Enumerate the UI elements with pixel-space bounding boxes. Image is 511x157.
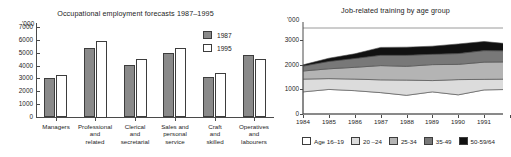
bar-chart-x-tick bbox=[135, 118, 136, 121]
legend-label: 25-34 bbox=[401, 138, 417, 145]
area-chart-x-tick-label: 1989 bbox=[419, 118, 445, 125]
bar-chart-category-label: Craftandskilled bbox=[193, 123, 237, 145]
bar-1987-craft-and-skilled bbox=[203, 77, 214, 117]
area-chart-x-tick-label: 1984 bbox=[290, 118, 316, 125]
bar-chart-x-tick bbox=[95, 118, 96, 121]
bar-1987-professional-and-related bbox=[84, 48, 95, 117]
bar-chart-category-label: Operativesandlabourers bbox=[232, 123, 276, 145]
bar-chart-y-tick bbox=[37, 27, 40, 28]
area-chart-plot-area: 0100020003000198419851986198719881989199… bbox=[280, 0, 503, 157]
legend-label: Age 16–19 bbox=[314, 138, 344, 145]
bar-chart-y-tick bbox=[37, 104, 40, 105]
bar-1995-professional-and-related bbox=[96, 41, 107, 118]
bar-chart-category-label: Professionalandrelated bbox=[73, 123, 117, 145]
area-chart-y-tick bbox=[300, 89, 303, 90]
bar-chart-legend: 1987 1995 bbox=[203, 31, 232, 57]
legend-item-20-24: 20 –24 bbox=[351, 137, 382, 145]
bar-1987-clerical-and-secretarial bbox=[124, 65, 135, 117]
bar-chart-y-tick bbox=[37, 53, 40, 54]
area-chart-x-tick-label: 1991 bbox=[471, 118, 497, 125]
area-chart-y-tick bbox=[300, 65, 303, 66]
bar-1995-clerical-and-secretarial bbox=[136, 59, 147, 117]
bar-chart-panel: Occupational employment forecasts 1987–1… bbox=[0, 0, 280, 157]
area-chart-y-tick bbox=[300, 40, 303, 41]
legend-swatch-1987 bbox=[203, 31, 212, 39]
area-chart-legend: Age 16–1920 –2425-3435-4950-59/64 bbox=[302, 137, 502, 145]
bar-1995-sales-and-personal-service bbox=[175, 48, 186, 117]
legend-item-25-34: 25-34 bbox=[389, 137, 417, 145]
legend-label: 50-59/64 bbox=[471, 138, 495, 145]
bar-chart-y-tick-label: 4000 bbox=[4, 62, 33, 69]
bar-chart-y-axis bbox=[36, 23, 37, 117]
bar-chart-category-label: Clericalandsecretarial bbox=[113, 123, 157, 145]
area-chart-panel: Job-related training by age group '000 0… bbox=[280, 0, 503, 157]
bar-1987-managers bbox=[44, 78, 55, 117]
legend-swatch bbox=[389, 137, 398, 145]
bar-chart-y-tick-label: 7000 bbox=[4, 23, 33, 30]
legend-item-age-16-19: Age 16–19 bbox=[302, 137, 344, 145]
legend-swatch bbox=[351, 137, 360, 145]
area-chart-y-tick-label: 2000 bbox=[277, 61, 299, 68]
area-chart-svg bbox=[280, 0, 503, 157]
bar-chart-y-tick bbox=[37, 117, 40, 118]
bar-1987-operatives-and-labourers bbox=[243, 55, 254, 117]
bar-chart-category-label: Managers bbox=[34, 123, 78, 130]
legend-swatch-1995 bbox=[203, 44, 212, 52]
legend-item-1987: 1987 bbox=[203, 31, 232, 39]
legend-label-1987: 1987 bbox=[217, 32, 232, 39]
bar-chart-y-tick bbox=[37, 78, 40, 79]
legend-label-1995: 1995 bbox=[217, 45, 232, 52]
bar-chart-x-tick bbox=[175, 118, 176, 121]
bar-chart-y-tick-label: 3000 bbox=[4, 74, 33, 81]
bar-chart-y-tick bbox=[37, 91, 40, 92]
bar-chart-y-tick bbox=[37, 66, 40, 67]
legend-swatch bbox=[302, 137, 311, 145]
bar-chart-x-tick bbox=[215, 118, 216, 121]
bar-1995-craft-and-skilled bbox=[215, 73, 226, 117]
bar-chart-y-tick-label: 5000 bbox=[4, 49, 33, 56]
area-chart-y-tick-label: 0 bbox=[277, 110, 299, 117]
bar-chart-plot-area: 01000200030004000500060007000ManagersPro… bbox=[0, 0, 280, 157]
bar-chart-y-tick bbox=[37, 40, 40, 41]
bar-chart-y-tick-label: 0 bbox=[4, 113, 33, 120]
legend-item-50-59-64: 50-59/64 bbox=[459, 137, 495, 145]
area-chart-x-tick-label: 1985 bbox=[316, 118, 342, 125]
area-chart-x-tick-label: 1990 bbox=[445, 118, 471, 125]
area-chart-x-tick-label: 1986 bbox=[342, 118, 368, 125]
bar-chart-y-tick-label: 6000 bbox=[4, 36, 33, 43]
legend-swatch bbox=[424, 137, 433, 145]
bar-1987-sales-and-personal-service bbox=[163, 53, 174, 117]
legend-label: 35-49 bbox=[436, 138, 452, 145]
area-chart-y-tick-label: 1000 bbox=[277, 85, 299, 92]
bar-chart-y-tick-label: 1000 bbox=[4, 100, 33, 107]
bar-1995-operatives-and-labourers bbox=[255, 59, 266, 117]
bar-chart-x-tick bbox=[254, 118, 255, 121]
bar-1995-managers bbox=[56, 75, 67, 117]
bar-chart-y-tick-label: 2000 bbox=[4, 87, 33, 94]
legend-label: 20 –24 bbox=[363, 138, 382, 145]
bar-chart-x-axis bbox=[36, 117, 274, 118]
bar-chart-category-label: Sales andpersonalservice bbox=[153, 123, 197, 145]
legend-item-35-49: 35-49 bbox=[424, 137, 452, 145]
area-chart-x-tick-label: 1987 bbox=[368, 118, 394, 125]
legend-item-1995: 1995 bbox=[203, 44, 232, 52]
legend-swatch bbox=[459, 137, 468, 145]
area-chart-y-tick-label: 3000 bbox=[277, 36, 299, 43]
area-chart-x-tick-label: 1988 bbox=[394, 118, 420, 125]
bar-chart-x-tick bbox=[56, 118, 57, 121]
